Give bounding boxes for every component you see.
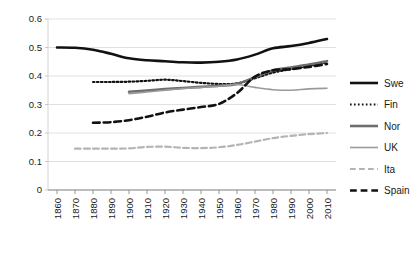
x-axis-tick-label: 2000 <box>304 198 315 219</box>
series-line-ita <box>75 133 327 149</box>
x-axis-labels: 1860187018801890190019101920193019401950… <box>52 198 333 219</box>
line-chart: 00.10.20.30.40.50.6 18601870188018901900… <box>0 0 418 266</box>
x-axis-tick-label: 1870 <box>70 198 81 219</box>
x-axis-tick-label: 1950 <box>214 198 225 219</box>
legend-label-fin: Fin <box>384 99 398 110</box>
x-axis-tick-label: 1960 <box>232 198 243 219</box>
series-line-swe <box>57 39 327 63</box>
y-axis-tick-label: 0.6 <box>29 13 42 24</box>
legend-label-uk: UK <box>384 142 398 153</box>
series-line-spain <box>93 64 327 123</box>
y-axis-tick-label: 0 <box>37 184 42 195</box>
chart-legend: SweFinNorUKItaSpain <box>350 78 410 197</box>
y-axis-tick-label: 0.5 <box>29 42 42 53</box>
x-axis-ticks <box>57 190 327 194</box>
y-axis-tick-label: 0.2 <box>29 127 42 138</box>
y-axis-tick-label: 0.4 <box>29 70 42 81</box>
x-axis-tick-label: 1930 <box>178 198 189 219</box>
x-axis-tick-label: 1890 <box>106 198 117 219</box>
series-line-nor <box>129 61 327 92</box>
x-axis-tick-label: 1980 <box>268 198 279 219</box>
x-axis-tick-label: 1970 <box>250 198 261 219</box>
legend-label-spain: Spain <box>384 185 410 196</box>
legend-label-ita: Ita <box>384 164 396 175</box>
legend-label-nor: Nor <box>384 121 401 132</box>
x-axis-tick-label: 1990 <box>286 198 297 219</box>
x-axis-tick-label: 1860 <box>52 198 63 219</box>
x-axis-tick-label: 1940 <box>196 198 207 219</box>
y-axis-tick-label: 0.3 <box>29 99 42 110</box>
chart-container: 00.10.20.30.40.50.6 18601870188018901900… <box>0 0 418 266</box>
x-axis-tick-label: 1880 <box>88 198 99 219</box>
x-axis-tick-label: 1910 <box>142 198 153 219</box>
x-axis-tick-label: 1900 <box>124 198 135 219</box>
y-axis-tick-label: 0.1 <box>29 156 42 167</box>
series-line-fin <box>93 62 327 84</box>
y-axis-labels: 00.10.20.30.40.50.6 <box>29 13 48 195</box>
x-axis-tick-label: 2010 <box>322 198 333 219</box>
legend-label-swe: Swe <box>384 78 404 89</box>
x-axis-tick-label: 1920 <box>160 198 171 219</box>
data-series <box>57 39 327 149</box>
